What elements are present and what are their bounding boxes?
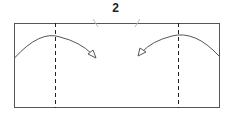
fold-diagram xyxy=(0,0,231,114)
